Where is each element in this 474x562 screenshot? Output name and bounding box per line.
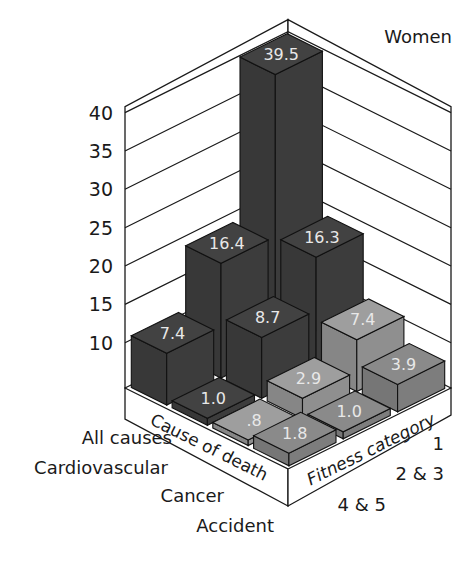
cause-label: Cardiovascular [34, 457, 169, 478]
fitness-label: 4 & 5 [338, 494, 386, 515]
bar-value-label: 7.4 [160, 324, 185, 343]
cause-label: All causes [82, 427, 172, 448]
cause-label: Cancer [161, 485, 225, 506]
y-tick-label: 30 [89, 178, 113, 200]
bar-value-label: 1.0 [201, 389, 226, 408]
bar-value-label: 1.0 [336, 402, 361, 421]
bar-value-label: 7.4 [350, 310, 375, 329]
bar-value-label: 8.7 [255, 308, 280, 327]
bar-value-label: .8 [246, 411, 261, 430]
fitness-label: 1 [433, 433, 444, 454]
y-axis-ticks: 10152025303540 [89, 102, 113, 354]
y-tick-label: 40 [89, 102, 113, 124]
fitness-label: 2 & 3 [396, 463, 444, 484]
bar-value-label: 1.8 [282, 424, 307, 443]
cause-label: Accident [196, 515, 274, 536]
y-tick-label: 15 [89, 293, 113, 315]
bar-value-label: 2.9 [296, 369, 321, 388]
bar-value-label: 16.3 [304, 228, 340, 247]
bar-value-label: 3.9 [391, 355, 416, 374]
y-tick-label: 35 [89, 140, 113, 162]
y-tick-label: 10 [89, 332, 113, 354]
y-tick-label: 20 [89, 255, 113, 277]
chart-title: Women [384, 26, 452, 47]
y-tick-label: 25 [89, 217, 113, 239]
bar-value-label: 16.4 [209, 234, 245, 253]
3d-bar-chart: 10152025303540 Cause of deathFitness cat… [0, 0, 474, 562]
bar-value-label: 39.5 [263, 45, 299, 64]
